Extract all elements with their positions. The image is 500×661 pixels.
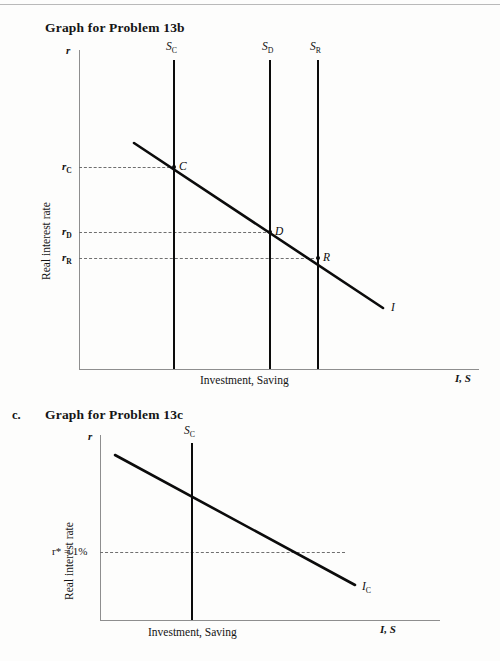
figure-b-title: Graph for Problem 13b <box>45 20 185 36</box>
figure-c-investment-curve <box>0 400 500 661</box>
figure-c-world-rate-dashed <box>100 552 345 553</box>
figure-problem-13c: c. Graph for Problem 13c r I, S Real int… <box>0 400 500 661</box>
figure-c-part-letter: c. <box>12 408 21 423</box>
figure-b-y-axis-caption: Real interest rate <box>40 202 52 280</box>
figure-b-investment-curve-label: I <box>391 301 395 313</box>
saving-curve-r-label: SR <box>310 40 321 55</box>
figure-c-x-axis-caption: Investment, Saving <box>148 626 237 638</box>
figure-b-dashed-rr <box>79 258 319 259</box>
saving-curve-d-line <box>269 60 271 369</box>
equilibrium-dot-d <box>268 230 272 234</box>
rate-tick-rd: rD <box>62 225 72 240</box>
figure-b-x-axis <box>79 369 479 370</box>
saving-curve-d-label: SD <box>262 40 273 55</box>
figure-c-y-axis-symbol: r <box>88 430 92 442</box>
figure-b-y-axis <box>79 50 80 370</box>
figure-b-dashed-rc <box>79 167 175 168</box>
rate-tick-rc-sub: C <box>66 166 72 175</box>
page-canvas: Graph for Problem 13b r I, S Real intere… <box>0 0 500 661</box>
rate-tick-rd-sub: D <box>66 231 72 240</box>
saving-curve-c-label-sub: C <box>172 46 177 55</box>
figure-c-title: Graph for Problem 13c <box>45 407 183 423</box>
equilibrium-dot-c <box>172 165 176 169</box>
figure-c-saving-curve-line <box>191 443 193 620</box>
rate-tick-rr: rR <box>62 251 72 266</box>
saving-curve-r-line <box>317 60 319 369</box>
figure-b-investment-curve <box>0 0 500 395</box>
figure-c-investment-curve-label-sub: C <box>366 586 371 595</box>
rate-tick-rr-sub: R <box>66 257 72 266</box>
figure-c-world-rate-label: r* = 1% <box>52 545 88 557</box>
saving-curve-r-label-sub: R <box>316 46 321 55</box>
figure-b-x-axis-caption: Investment, Saving <box>200 374 289 386</box>
figure-c-x-axis <box>100 620 440 621</box>
figure-c-saving-curve-label-sub: C <box>190 430 195 439</box>
figure-c-saving-curve-label: SC <box>184 424 195 439</box>
saving-curve-c-line <box>173 60 175 369</box>
saving-curve-c-label: SC <box>166 40 177 55</box>
rate-tick-rc: rC <box>62 160 72 175</box>
figure-c-y-axis-caption: Real interest rate <box>63 522 75 600</box>
figure-c-y-axis <box>100 435 101 620</box>
figure-b-x-axis-symbol: I, S <box>455 372 471 384</box>
figure-b-y-axis-symbol: r <box>66 44 70 56</box>
equilibrium-label-d: D <box>275 225 283 237</box>
equilibrium-label-r: R <box>323 251 330 263</box>
equilibrium-label-c: C <box>179 160 187 172</box>
figure-c-investment-curve-label: IC <box>362 580 371 595</box>
figure-problem-13b: Graph for Problem 13b r I, S Real intere… <box>0 0 500 395</box>
saving-curve-d-label-sub: D <box>268 46 274 55</box>
figure-c-x-axis-symbol: I, S <box>380 623 396 635</box>
equilibrium-dot-r <box>316 256 320 260</box>
